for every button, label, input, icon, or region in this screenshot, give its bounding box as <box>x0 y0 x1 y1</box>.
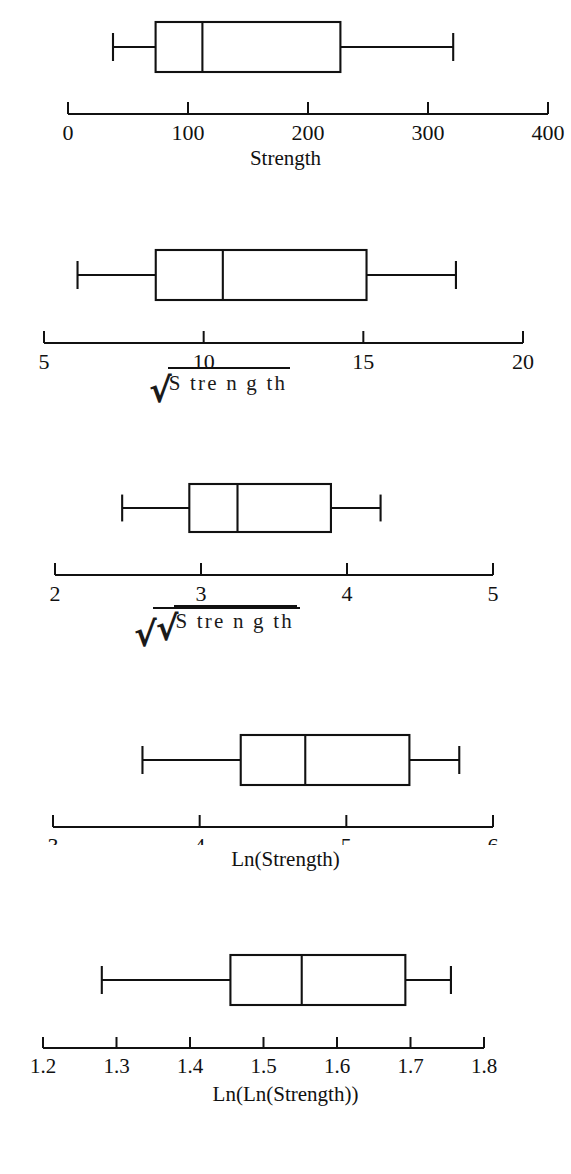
axis-tick-label: 3 <box>48 833 59 845</box>
axis-tick-label: 5 <box>341 833 352 845</box>
boxplot-svg-strength: 0100200300400 <box>0 0 571 140</box>
box-iqr <box>230 955 405 1005</box>
axis-tick-label: 5 <box>39 349 50 374</box>
axis-label-sqrt-strength: √S tre n g th <box>147 373 290 404</box>
axis-tick-label: 5 <box>488 581 499 606</box>
axis-tick-label: 200 <box>292 120 325 140</box>
axis-label-fourth-root-strength: √ √S tre n g th <box>132 613 300 648</box>
axis-tick-label: 6 <box>488 833 499 845</box>
boxplot-panel-strength: 0100200300400 Strength <box>0 0 571 180</box>
box-iqr <box>241 735 410 785</box>
radical-outer: √ √S tre n g th <box>132 613 300 648</box>
boxplot-svg-sqrt-strength: 5101520 <box>0 225 571 375</box>
axis-tick-label: 20 <box>512 349 534 374</box>
boxplot-panel-lnln-strength: 1.21.31.41.51.61.71.8 Ln(Ln(Strength)) <box>0 920 571 1174</box>
radical-content: S tre n g th <box>168 367 291 396</box>
axis-tick-label: 1.2 <box>30 1054 56 1078</box>
axis-tick-label: 1.4 <box>177 1054 204 1078</box>
axis-tick-label: 400 <box>532 120 565 140</box>
axis-tick-label: 1.5 <box>250 1054 276 1078</box>
boxplot-svg-ln-strength: 3456 <box>0 705 571 845</box>
radical-outer: √S tre n g th <box>147 373 290 404</box>
boxplot-svg-fourth-root-strength: 2345 <box>0 465 571 615</box>
boxplot-panel-sqrt-strength: 5101520 √S tre n g th <box>0 225 571 440</box>
boxplot-panel-ln-strength: 3456 Ln(Strength) <box>0 705 571 885</box>
box-iqr <box>156 250 367 300</box>
axis-tick-label: 15 <box>352 349 374 374</box>
axis-tick-label: 2 <box>50 581 61 606</box>
axis-label-lnln-strength: Ln(Ln(Strength)) <box>0 1082 571 1107</box>
axis-tick-label: 1.6 <box>324 1054 350 1078</box>
axis-tick-label: 1.7 <box>397 1054 423 1078</box>
axis-tick-label: 300 <box>412 120 445 140</box>
radical-inner: √S tre n g th <box>154 611 297 642</box>
axis-tick-label: 1.8 <box>471 1054 497 1078</box>
radical-inner-content: S tre n g th <box>174 605 297 634</box>
axis-tick-label: 100 <box>172 120 205 140</box>
axis-label-ln-strength: Ln(Strength) <box>0 847 571 872</box>
axis-tick-label: 4 <box>194 833 205 845</box>
box-iqr <box>156 22 341 72</box>
axis-tick-label: 4 <box>342 581 353 606</box>
axis-label-strength: Strength <box>0 146 571 171</box>
box-iqr <box>189 484 331 532</box>
boxplot-svg-lnln-strength: 1.21.31.41.51.61.71.8 <box>0 920 571 1080</box>
boxplot-panel-fourth-root-strength: 2345 √ √S tre n g th <box>0 465 571 685</box>
radical-outer-content: √S tre n g th <box>153 607 300 642</box>
axis-tick-label: 1.3 <box>103 1054 129 1078</box>
axis-tick-label: 3 <box>196 581 207 606</box>
axis-tick-label: 0 <box>63 120 74 140</box>
